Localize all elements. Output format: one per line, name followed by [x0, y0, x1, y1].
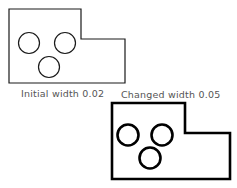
hole-circle	[55, 33, 76, 54]
hole-circle	[152, 125, 173, 146]
hole-circle	[140, 148, 161, 169]
hole-circle	[19, 33, 40, 54]
figure-changed-width: Changed width 0.05	[112, 89, 230, 179]
hole-circle	[118, 125, 139, 146]
hole-circle	[39, 57, 60, 78]
initial-width-label: Initial width 0.02	[21, 88, 104, 99]
changed-width-label: Changed width 0.05	[121, 89, 220, 100]
line-width-diagram: Initial width 0.02 Changed width 0.05	[0, 0, 237, 188]
part-outline	[9, 9, 125, 83]
figure-initial-width: Initial width 0.02	[9, 9, 125, 99]
